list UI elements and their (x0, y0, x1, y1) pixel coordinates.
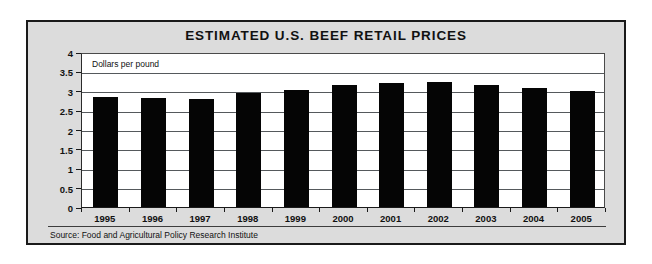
x-axis-tick-label: 1996 (129, 213, 175, 224)
x-axis-tick-label: 2004 (511, 213, 557, 224)
y-axis-tick-label: 0.5 (33, 183, 73, 194)
bar (474, 85, 499, 207)
x-axis-tick-mark (224, 208, 225, 212)
y-axis-tick-label: 3.5 (33, 67, 73, 78)
bar (332, 85, 357, 207)
bar (522, 88, 547, 207)
x-axis-tick-mark (176, 208, 177, 212)
y-axis-tick-label: 2 (33, 125, 73, 136)
axis-unit-annotation: Dollars per pound (92, 59, 159, 69)
y-axis-tick-mark (76, 53, 81, 54)
x-axis-tick-mark (129, 208, 130, 212)
chart-figure: ESTIMATED U.S. BEEF RETAIL PRICES Dollar… (0, 0, 652, 264)
chart-panel: ESTIMATED U.S. BEEF RETAIL PRICES Dollar… (26, 20, 626, 245)
bar (93, 97, 118, 207)
y-axis-tick-mark (76, 169, 81, 170)
x-axis-tick-mark (462, 208, 463, 212)
y-axis-tick-mark (76, 188, 81, 189)
x-axis-tick-label: 2005 (558, 213, 604, 224)
bar (427, 82, 452, 207)
bar (379, 83, 404, 207)
y-axis-tick-label: 2.5 (33, 106, 73, 117)
y-axis-tick-label: 1.5 (33, 144, 73, 155)
y-axis-tick-label: 1 (33, 164, 73, 175)
plot-area: Dollars per pound (81, 53, 605, 208)
y-axis-tick-label: 0 (33, 203, 73, 214)
x-axis-tick-label: 1999 (272, 213, 318, 224)
x-axis-tick-label: 2000 (320, 213, 366, 224)
x-axis-tick-label: 1998 (225, 213, 271, 224)
bar (284, 90, 309, 207)
bar (570, 91, 595, 207)
x-axis-tick-mark (510, 208, 511, 212)
y-axis-tick-mark (76, 130, 81, 131)
x-axis-tick-mark (367, 208, 368, 212)
x-axis-tick-mark (414, 208, 415, 212)
source-note: Source: Food and Agricultural Policy Res… (50, 230, 258, 240)
x-axis-tick-mark (605, 208, 606, 212)
x-axis-tick-label: 2003 (463, 213, 509, 224)
x-axis-tick-label: 2001 (368, 213, 414, 224)
bar (189, 99, 214, 207)
y-axis-tick-mark (76, 149, 81, 150)
bar (236, 93, 261, 207)
x-axis-tick-mark (81, 208, 82, 212)
x-axis-tick-label: 2002 (415, 213, 461, 224)
x-axis-tick-label: 1995 (82, 213, 128, 224)
x-axis-tick-mark (557, 208, 558, 212)
x-axis-tick-mark (319, 208, 320, 212)
bar (141, 98, 166, 207)
source-divider (48, 226, 606, 227)
x-axis-tick-label: 1997 (177, 213, 223, 224)
chart-title: ESTIMATED U.S. BEEF RETAIL PRICES (28, 28, 624, 43)
gridline (82, 73, 604, 74)
y-axis-tick-mark (76, 72, 81, 73)
y-axis-tick-mark (76, 111, 81, 112)
x-axis-tick-mark (272, 208, 273, 212)
y-axis-tick-mark (76, 91, 81, 92)
y-axis-tick-label: 3 (33, 86, 73, 97)
y-axis-tick-label: 4 (33, 48, 73, 59)
